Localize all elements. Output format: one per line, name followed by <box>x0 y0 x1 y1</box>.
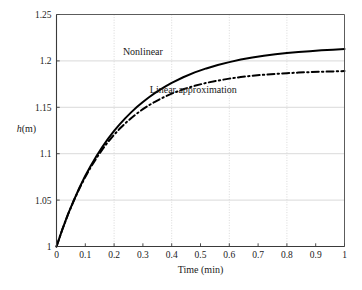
y-tick-label: 1 <box>47 242 52 252</box>
x-tick-label: 0.6 <box>223 250 235 260</box>
curve-label-1: Nonlinear <box>123 46 164 57</box>
x-tick-label: 0.2 <box>108 250 120 260</box>
y-tick-label: 1.1 <box>40 149 52 159</box>
axis-ticks: 00.10.20.30.40.50.60.70.80.9111.051.11.1… <box>35 10 347 260</box>
x-tick-label: 0.8 <box>281 250 293 260</box>
x-tick-label: 0.7 <box>252 250 264 260</box>
y-axis-title: h(m) <box>17 123 36 135</box>
series-line-1 <box>57 49 345 246</box>
x-tick-label: 0.4 <box>166 250 178 260</box>
axes-frame <box>57 15 345 247</box>
data-series <box>57 49 345 246</box>
x-axis-title: Time (min) <box>178 264 223 276</box>
x-tick-label: 0.5 <box>195 250 207 260</box>
x-tick-label: 0 <box>54 250 59 260</box>
y-tick-label: 1.25 <box>35 10 52 20</box>
grid-lines <box>57 15 345 247</box>
y-tick-label: 1.2 <box>40 56 52 66</box>
line-chart: 00.10.20.30.40.50.60.70.80.9111.051.11.1… <box>0 0 362 290</box>
chart-figure: 00.10.20.30.40.50.60.70.80.9111.051.11.1… <box>0 0 362 290</box>
x-tick-label: 0.9 <box>310 250 322 260</box>
curve-annotations: NonlinearLinear approximation <box>123 46 237 94</box>
x-tick-label: 1 <box>342 250 347 260</box>
y-tick-label: 1.05 <box>35 196 52 206</box>
x-tick-label: 0.3 <box>137 250 149 260</box>
series-line-2 <box>57 71 345 246</box>
x-tick-label: 0.1 <box>79 250 91 260</box>
y-tick-label: 1.15 <box>35 103 52 113</box>
curve-label-2: Linear approximation <box>150 84 237 95</box>
